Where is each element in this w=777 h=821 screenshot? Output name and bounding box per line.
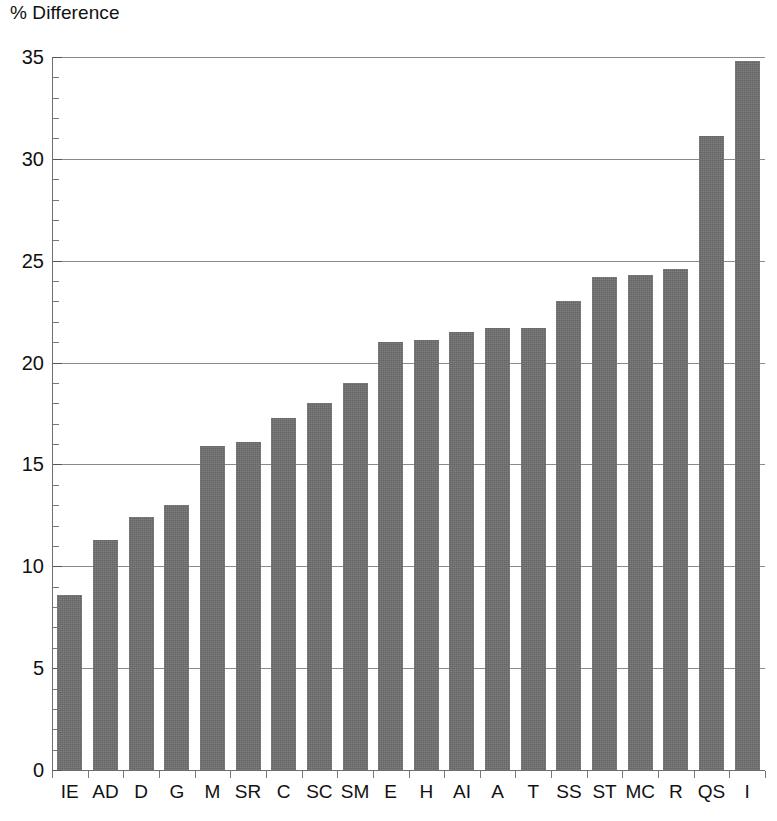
bar-ie — [57, 595, 82, 770]
bar-m — [200, 446, 225, 770]
bar-t — [521, 328, 546, 770]
bar-ad — [93, 540, 118, 770]
bar-c — [271, 418, 296, 770]
x-tick — [694, 771, 695, 778]
bar-i — [735, 61, 760, 770]
x-tick-label-t: T — [527, 782, 539, 802]
x-tick — [159, 771, 160, 778]
x-tick-label-ai: AI — [453, 782, 471, 802]
x-tick — [765, 771, 766, 778]
x-tick-label-r: R — [669, 782, 683, 802]
x-tick — [729, 771, 730, 778]
x-tick — [551, 771, 552, 778]
x-tick-label-ad: AD — [92, 782, 118, 802]
x-tick — [266, 771, 267, 778]
bar-h — [414, 340, 439, 770]
x-tick — [52, 771, 53, 778]
x-tick — [622, 771, 623, 778]
x-tick — [515, 771, 516, 778]
x-tick-label-c: C — [277, 782, 291, 802]
x-tick — [195, 771, 196, 778]
x-tick-label-i: I — [745, 782, 750, 802]
bar-ai — [449, 332, 474, 770]
x-tick — [373, 771, 374, 778]
x-tick-label-sm: SM — [341, 782, 370, 802]
bars-layer — [0, 0, 777, 821]
x-tick — [480, 771, 481, 778]
x-tick-label-ss: SS — [556, 782, 581, 802]
bar-sm — [343, 383, 368, 770]
x-tick-label-e: E — [384, 782, 397, 802]
x-tick — [409, 771, 410, 778]
x-tick-label-sr: SR — [235, 782, 261, 802]
x-tick — [658, 771, 659, 778]
x-tick-label-g: G — [169, 782, 184, 802]
bar-g — [164, 505, 189, 770]
bar-d — [129, 517, 154, 770]
x-tick-label-sc: SC — [306, 782, 332, 802]
x-tick — [587, 771, 588, 778]
x-tick-label-st: ST — [592, 782, 616, 802]
x-tick-label-mc: MC — [625, 782, 655, 802]
bar-mc — [628, 275, 653, 770]
bar-sc — [307, 403, 332, 770]
bar-qs — [699, 136, 724, 770]
x-tick — [444, 771, 445, 778]
x-tick-label-d: D — [134, 782, 148, 802]
x-tick — [302, 771, 303, 778]
x-tick-label-ie: IE — [61, 782, 79, 802]
bar-st — [592, 277, 617, 770]
x-tick — [230, 771, 231, 778]
x-tick — [88, 771, 89, 778]
bar-chart: % Difference 05101520253035 IEADDGMSRCSC… — [0, 0, 777, 821]
x-tick — [123, 771, 124, 778]
bar-ss — [556, 301, 581, 770]
x-tick — [337, 771, 338, 778]
bar-a — [485, 328, 510, 770]
x-tick-label-m: M — [205, 782, 221, 802]
bar-e — [378, 342, 403, 770]
x-tick-label-h: H — [419, 782, 433, 802]
x-tick-label-qs: QS — [698, 782, 725, 802]
bar-sr — [236, 442, 261, 770]
bar-r — [663, 269, 688, 770]
x-tick-label-a: A — [491, 782, 504, 802]
